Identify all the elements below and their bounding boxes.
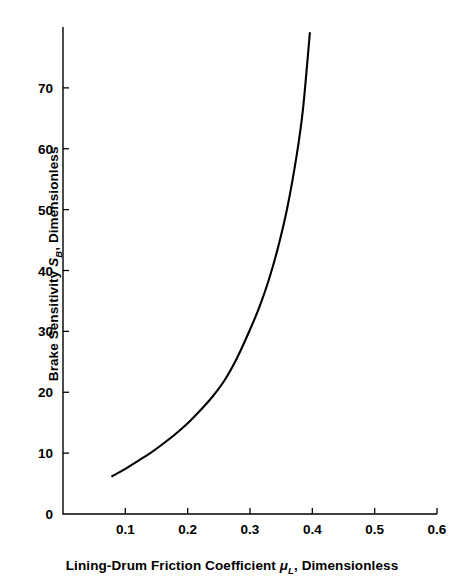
x-tick-label: 0.6 bbox=[428, 522, 447, 537]
y-axis-title-post: , Dimensionless bbox=[46, 146, 61, 250]
brake-sensitivity-chart: 0102030405060700.10.20.30.40.50.6 Brake … bbox=[0, 0, 464, 588]
y-axis-title-pre: Brake Sensitivity bbox=[46, 267, 61, 381]
y-axis-title: Brake Sensitivity SB, Dimensionless bbox=[46, 114, 64, 414]
x-tick-label: 0.5 bbox=[365, 522, 384, 537]
y-tick-label: 10 bbox=[38, 446, 53, 461]
y-tick-label: 70 bbox=[38, 81, 53, 96]
x-tick-label: 0.4 bbox=[303, 522, 322, 537]
x-tick-label: 0.2 bbox=[178, 522, 197, 537]
x-axis-title-pre: Lining-Drum Friction Coefficient bbox=[66, 558, 280, 573]
y-tick-label: 0 bbox=[45, 507, 53, 522]
chart-axes bbox=[63, 27, 437, 514]
chart-plot-area: 0102030405060700.10.20.30.40.50.6 bbox=[0, 0, 464, 588]
x-axis-symbol: μ bbox=[280, 558, 288, 573]
x-tick-label: 0.3 bbox=[241, 522, 260, 537]
data-curve bbox=[112, 33, 310, 476]
y-axis-symbol: S bbox=[46, 258, 61, 267]
x-axis-title: Lining-Drum Friction Coefficient μL, Dim… bbox=[0, 558, 464, 576]
x-axis-title-post: , Dimensionless bbox=[294, 558, 398, 573]
x-tick-label: 0.1 bbox=[116, 522, 135, 537]
y-axis-subscript: B bbox=[53, 251, 64, 258]
